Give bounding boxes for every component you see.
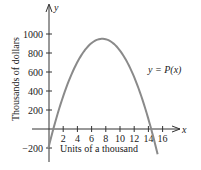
x-axis-title: Units of a thousand [60,143,138,154]
y-axis-symbol: y [53,2,59,13]
x-axis-symbol: x [181,124,187,135]
y-tick-label: 400 [28,86,43,97]
x-tick-label: 16 [158,133,168,144]
y-tick-label: 200 [28,105,43,116]
y-tick-label: 800 [28,48,43,59]
y-tick-label: −200 [22,143,43,154]
profit-chart: −2002004006008001000 246810121416 y = P(… [0,0,201,170]
y-ticks: −2002004006008001000 [22,29,52,154]
y-axis-title: Thousands of dollars [10,37,21,121]
y-tick-label: 1000 [23,29,43,40]
y-tick-label: 600 [28,67,43,78]
curve-label: y = P(x) [147,64,182,76]
